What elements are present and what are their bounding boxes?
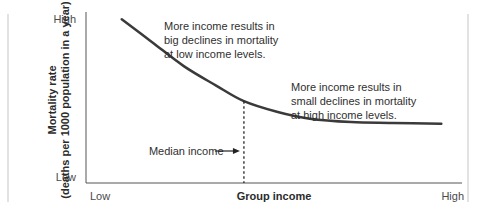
mortality-income-chart: High Low Low High Group income Mortality… — [0, 0, 487, 215]
arrowhead-icon — [233, 148, 240, 154]
x-tick-high: High — [441, 190, 464, 202]
y-axis-subtitle: (deaths per 1000 population in a year) — [59, 1, 71, 199]
annotation-high-line-1: More income results in — [291, 81, 402, 93]
y-axis-title: Mortality rate — [46, 65, 58, 134]
x-axis-title: Group income — [237, 190, 312, 202]
annotation-low-line-3: at low income levels. — [164, 48, 266, 60]
annotation-high-income: More income results in small declines in… — [291, 81, 417, 121]
x-tick-low: Low — [90, 190, 110, 202]
annotation-low-line-1: More income results in — [164, 20, 275, 32]
median-income-label: Median income — [149, 145, 224, 157]
annotation-low-line-2: big declines in mortality — [164, 34, 279, 46]
annotation-high-line-3: at high income levels. — [291, 109, 397, 121]
annotation-low-income: More income results in big declines in m… — [164, 20, 279, 60]
annotation-high-line-2: small declines in mortality — [291, 95, 417, 107]
